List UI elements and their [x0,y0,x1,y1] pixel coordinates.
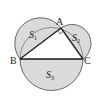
triangle-semicircles-diagram: A B C S1 S2 S3 [0,0,102,97]
label-b: B [10,55,17,66]
label-c: C [84,55,91,66]
label-a: A [56,16,64,27]
